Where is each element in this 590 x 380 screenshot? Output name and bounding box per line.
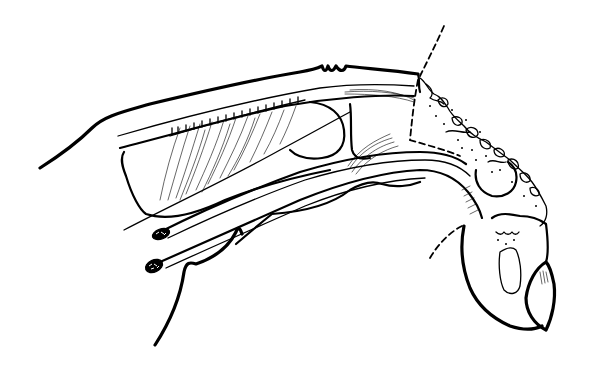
flexor-sheath-outer — [124, 112, 350, 230]
joint-space — [350, 104, 370, 159]
bone-speckle — [513, 239, 515, 241]
incision-line-volar — [430, 226, 462, 258]
anatomical-illustration — [0, 0, 590, 380]
dorsal-skin-outline — [40, 66, 418, 168]
bone-speckle — [505, 243, 507, 245]
nail-hatching — [540, 271, 548, 284]
distal-phalanx-top — [492, 214, 548, 262]
granulation-tissue — [420, 78, 547, 226]
dorsal-skin-end — [418, 74, 420, 92]
sheath-hatching — [462, 186, 478, 214]
incision-line-dorsal — [420, 26, 444, 76]
tendon-cut-end-lower — [143, 257, 164, 275]
extensor-sheath-lower — [120, 95, 414, 148]
volar-compartment — [122, 152, 330, 217]
bone-speckle — [497, 239, 499, 241]
distal-bone-cap — [496, 232, 519, 234]
distal-bone-inner — [499, 248, 521, 294]
volar-skin-pad — [236, 182, 420, 244]
flexor-tendon-deep-lower — [166, 178, 425, 268]
